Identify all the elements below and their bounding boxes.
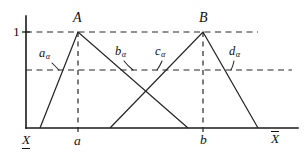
x-axis-upper-bound-label: X — [271, 131, 279, 146]
y-axis-tick-label-one: 1 — [13, 25, 20, 39]
alpha-point-label-d-alpha: dα — [229, 45, 240, 60]
x-axis-lower-bound-text: X — [22, 133, 30, 149]
alpha-point-sub-d: α — [235, 50, 240, 59]
membership-triangle-a — [40, 32, 188, 128]
leader-line-b-alpha — [124, 61, 133, 70]
leader-line-c-alpha — [157, 61, 162, 70]
leader-line-d-alpha — [231, 61, 234, 70]
peak-label-b: B — [199, 11, 208, 25]
leader-line-a-alpha — [52, 63, 59, 70]
figure-canvas — [0, 0, 305, 157]
alpha-point-sub-a: α — [45, 52, 50, 61]
alpha-point-sub-b: α — [121, 50, 126, 59]
alpha-point-label-b-alpha: bα — [115, 45, 126, 60]
x-tick-label-a: a — [74, 134, 81, 148]
alpha-point-base-c: c — [155, 44, 161, 58]
alpha-point-sub-c: α — [161, 50, 166, 59]
fuzzy-alpha-cut-figure: 1 A B aα bα cα dα X a b X — [0, 0, 305, 157]
x-axis-upper-bound-text: X — [271, 131, 279, 146]
x-axis-lower-bound-label: X — [22, 133, 30, 149]
x-tick-label-b: b — [200, 133, 207, 147]
alpha-point-label-c-alpha: cα — [155, 45, 165, 60]
peak-label-a: A — [73, 11, 82, 25]
alpha-point-label-a-alpha: aα — [39, 47, 50, 62]
